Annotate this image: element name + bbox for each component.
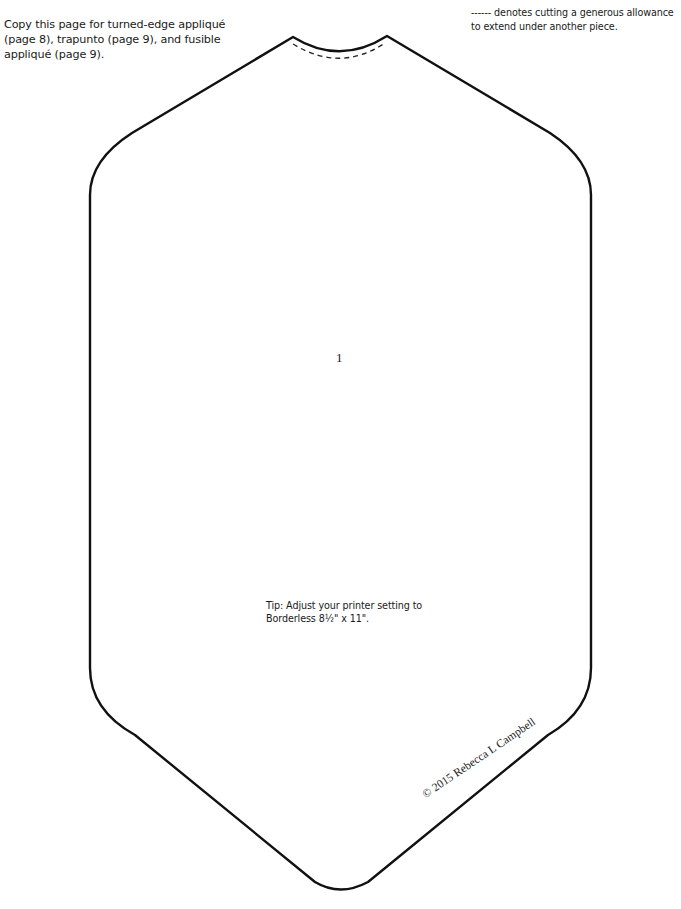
pattern-piece-outline	[0, 0, 681, 909]
tip-line-2: Borderless 8½" x 11".	[266, 613, 466, 626]
tip-line-1: Tip: Adjust your printer setting to	[266, 600, 466, 613]
piece-number-label: 1	[336, 351, 343, 365]
printer-tip: Tip: Adjust your printer setting to Bord…	[266, 600, 466, 625]
piece-outline-path	[90, 36, 591, 890]
